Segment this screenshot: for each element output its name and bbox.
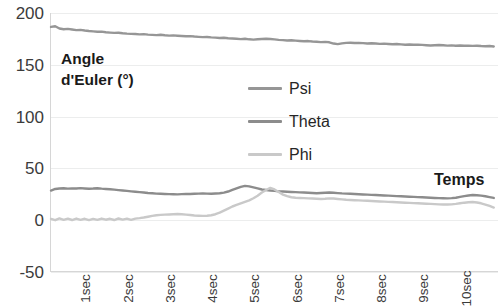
x-tick-label: 4sec <box>206 274 220 303</box>
y-tick-label: 200 <box>0 5 44 22</box>
x-tick-label: 6sec <box>290 274 304 303</box>
y-axis-title: Angle d'Euler (°) <box>61 48 134 90</box>
gridline <box>51 272 498 273</box>
x-axis-title: Temps <box>434 172 484 188</box>
x-tick-label: 5sec <box>248 274 262 303</box>
legend-item-theta[interactable]: Theta <box>248 105 330 138</box>
y-tick-label: 0 <box>0 212 44 229</box>
legend-label: Psi <box>289 81 311 97</box>
x-tick-label: 9sec <box>417 274 431 303</box>
legend-swatch-theta-icon <box>248 120 282 123</box>
x-tick-label: 2sec <box>121 274 135 303</box>
y-tick-label: 100 <box>0 109 44 126</box>
legend-label: Theta <box>289 114 330 130</box>
x-tick-label: 10sec <box>459 270 473 306</box>
y-tick-label: 50 <box>0 160 44 177</box>
chart-legend: PsiThetaPhi <box>248 72 330 171</box>
x-tick-label: 7sec <box>332 274 346 303</box>
x-tick-label: 8sec <box>375 274 389 303</box>
legend-swatch-phi-icon <box>248 153 282 156</box>
y-tick-label: -50 <box>0 264 44 281</box>
x-tick-label: 3sec <box>163 274 177 303</box>
legend-swatch-psi-icon <box>248 87 282 90</box>
legend-item-psi[interactable]: Psi <box>248 72 330 105</box>
series-line-psi <box>51 26 494 46</box>
series-line-phi <box>51 188 494 220</box>
legend-item-phi[interactable]: Phi <box>248 138 330 171</box>
x-tick-label: 1sec <box>79 274 93 303</box>
legend-label: Phi <box>289 147 312 163</box>
y-tick-label: 150 <box>0 57 44 74</box>
